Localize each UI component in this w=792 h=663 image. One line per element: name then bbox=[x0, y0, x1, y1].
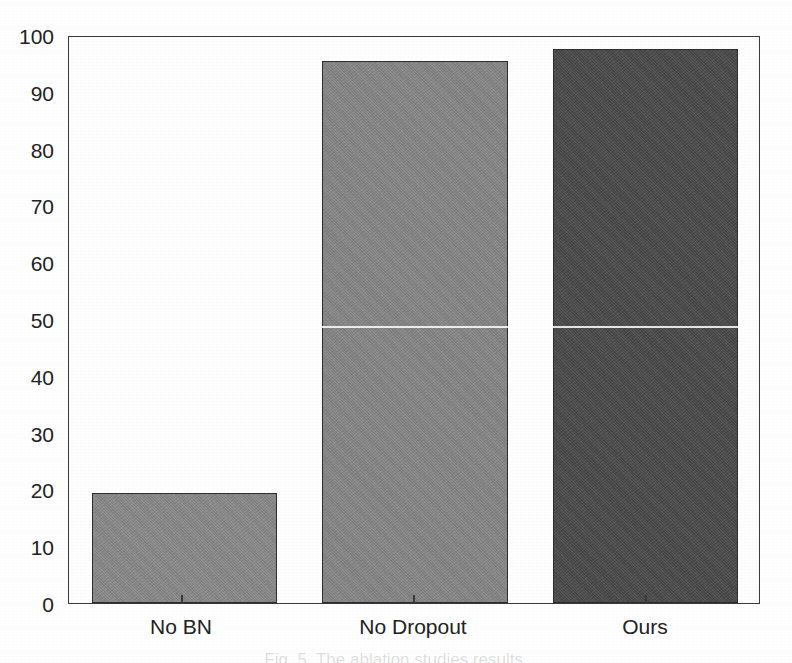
x-tick-label-ours: Ours bbox=[622, 616, 668, 637]
bar-texture bbox=[323, 62, 507, 602]
scan-line-artifact bbox=[69, 326, 759, 328]
y-tick-label-40: 40 bbox=[0, 366, 54, 387]
bar-chart-figure: 100 90 80 70 60 50 40 30 20 10 0 bbox=[0, 0, 792, 663]
x-axis-tick-labels: No BN No Dropout Ours bbox=[0, 616, 792, 646]
bar-no-dropout[interactable] bbox=[322, 61, 508, 603]
y-tick-label-30: 30 bbox=[0, 423, 54, 444]
y-tick-label-70: 70 bbox=[0, 196, 54, 217]
x-tick-label-no-bn: No BN bbox=[150, 616, 212, 637]
bar-no-bn[interactable] bbox=[92, 493, 278, 603]
y-tick-label-100: 100 bbox=[0, 26, 54, 47]
x-tick-mark-no-dropout bbox=[413, 595, 415, 604]
plot-frame bbox=[68, 36, 760, 604]
figure-caption: Fig. 5. The ablation studies results. bbox=[0, 650, 792, 663]
bar-texture bbox=[93, 494, 277, 602]
y-tick-label-80: 80 bbox=[0, 139, 54, 160]
plot-area bbox=[69, 37, 759, 603]
y-tick-label-60: 60 bbox=[0, 253, 54, 274]
x-tick-label-no-dropout: No Dropout bbox=[359, 616, 466, 637]
y-tick-label-50: 50 bbox=[0, 310, 54, 331]
y-tick-label-90: 90 bbox=[0, 82, 54, 103]
x-axis-tick-marks bbox=[0, 604, 792, 614]
y-tick-label-10: 10 bbox=[0, 537, 54, 558]
x-tick-mark-ours bbox=[645, 595, 647, 604]
y-axis-tick-labels: 100 90 80 70 60 50 40 30 20 10 0 bbox=[0, 0, 60, 663]
x-tick-mark-no-bn bbox=[181, 595, 183, 604]
y-tick-label-20: 20 bbox=[0, 480, 54, 501]
